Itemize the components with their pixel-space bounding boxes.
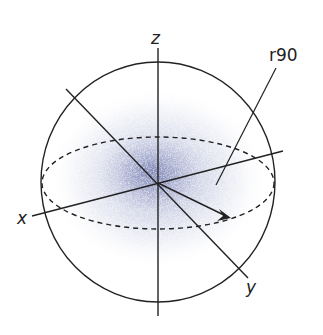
x-axis-label: x — [16, 208, 28, 228]
r90-label: r90 — [269, 45, 298, 65]
z-axis-label: z — [150, 28, 161, 48]
y-axis-label: y — [245, 277, 257, 297]
sphere-diagram: z x y r90 — [0, 0, 323, 335]
